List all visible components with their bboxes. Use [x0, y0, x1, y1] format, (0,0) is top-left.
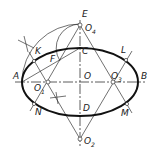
label-o: O [84, 72, 91, 81]
label-e: E [82, 10, 88, 19]
bisector-mark-top [24, 36, 28, 52]
label-o4: O4 [85, 24, 96, 35]
label-m: M [121, 109, 129, 118]
label-d: D [83, 104, 90, 113]
line-o4-m [80, 25, 132, 113]
label-o1: O1 [34, 84, 45, 95]
label-o4-sub: 4 [92, 28, 96, 35]
line-o2-l [80, 51, 132, 139]
point-o1-marker [46, 80, 50, 84]
label-o3-sub: 3 [118, 76, 122, 83]
label-o3: O3 [111, 72, 122, 83]
label-o1-sub: 1 [41, 88, 45, 95]
point-o4-marker [78, 23, 82, 27]
label-k: K [35, 47, 41, 56]
diagram: E O4 K C L F A O O3 B O1 N D M O2 [0, 0, 157, 164]
line-o4-n [30, 25, 80, 111]
label-o2-sub: 2 [91, 141, 95, 148]
label-l: L [121, 46, 126, 55]
point-l-marker [124, 58, 127, 61]
point-o2-marker [78, 137, 82, 141]
point-n-marker [32, 102, 35, 105]
label-o2: O2 [84, 137, 95, 148]
point-m-marker [125, 102, 128, 105]
ellipse-construction-drawing [0, 0, 157, 164]
difference-arc [56, 24, 80, 61]
label-f: F [50, 55, 55, 64]
bisector-mark-bottom [50, 96, 66, 98]
point-k-marker [32, 59, 35, 62]
label-n: N [35, 108, 42, 117]
label-b: B [141, 72, 147, 81]
line-o2-k [29, 52, 80, 139]
label-a: A [13, 72, 19, 81]
label-c: C [82, 47, 88, 56]
